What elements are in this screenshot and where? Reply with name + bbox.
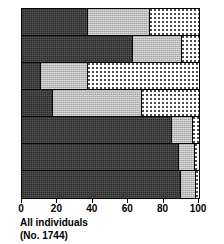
caption-line-1: All individuals: [20, 216, 88, 229]
axis-tick-label: 100: [190, 203, 207, 215]
bar-segment-dark: [22, 117, 171, 143]
bar-segment-gray: [87, 9, 149, 35]
bar-segment-dotted: [195, 171, 199, 198]
bar-segment-dark: [22, 171, 180, 198]
axis-tick-label: 80: [157, 203, 168, 215]
axis-tick-label: 60: [122, 203, 133, 215]
bar-row: [22, 63, 199, 90]
bar-segment-gray: [132, 36, 182, 62]
bar-segment-dark: [22, 36, 132, 62]
bar-row: [22, 171, 199, 198]
bar-segment-dotted: [194, 144, 199, 170]
bar-segment-dotted: [192, 117, 199, 143]
bar-segment-gray: [40, 63, 88, 89]
bar-segment-dark: [22, 144, 178, 170]
bar-row: [22, 144, 199, 171]
bar-row: [22, 36, 199, 63]
bar-segment-gray: [52, 90, 141, 116]
bar-segment-dark: [22, 63, 40, 89]
bar-segment-dotted: [181, 36, 199, 62]
caption-line-2: (No. 1744): [20, 229, 88, 242]
bar-segment-dotted: [87, 63, 199, 89]
bar-segment-dark: [22, 90, 52, 116]
axis-tick-label: 0: [18, 203, 24, 215]
bar-segment-gray: [178, 144, 194, 170]
chart-caption: All individuals (No. 1744): [20, 216, 88, 242]
plot-area: [21, 8, 200, 199]
bar-segment-gray: [180, 171, 196, 198]
stacked-bar-chart: 020406080100 All individuals (No. 1744): [0, 0, 224, 244]
bar-row: [22, 90, 199, 117]
x-axis-tick-labels: 020406080100: [0, 203, 224, 216]
bar-segment-dotted: [141, 90, 199, 116]
bar-row: [22, 9, 199, 36]
bar-row: [22, 117, 199, 144]
bar-segment-gray: [171, 117, 192, 143]
bar-segment-dotted: [149, 9, 199, 35]
axis-tick-label: 40: [86, 203, 97, 215]
axis-tick-label: 20: [51, 203, 62, 215]
bar-segment-dark: [22, 9, 87, 35]
